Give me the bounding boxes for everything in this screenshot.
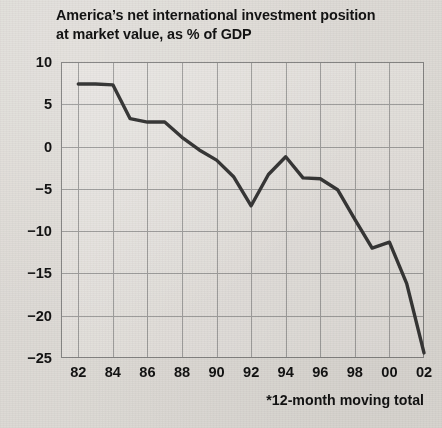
x-axis-tick-label: 92 — [243, 364, 259, 380]
x-axis-tick-label: 86 — [139, 364, 155, 380]
x-axis-tick-label: 90 — [208, 364, 224, 380]
x-axis: 8284868890929496980002 — [0, 0, 442, 428]
x-axis-tick-label: 00 — [381, 364, 397, 380]
x-axis-tick-label: 82 — [70, 364, 86, 380]
x-axis-tick-label: 84 — [105, 364, 121, 380]
x-axis-tick-label: 98 — [347, 364, 363, 380]
x-axis-tick-label: 88 — [174, 364, 190, 380]
x-axis-tick-label: 96 — [312, 364, 328, 380]
x-axis-tick-label: 02 — [416, 364, 432, 380]
chart-footnote: *12-month moving total — [266, 392, 424, 408]
chart-root: America’s net international investment p… — [0, 0, 442, 428]
x-axis-tick-label: 94 — [278, 364, 294, 380]
